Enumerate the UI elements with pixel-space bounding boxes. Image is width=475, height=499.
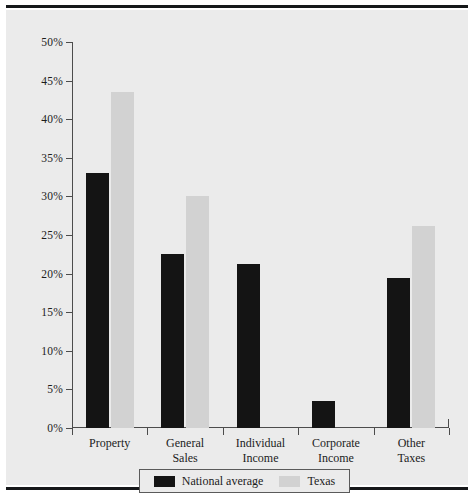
x-axis-tick	[223, 428, 224, 435]
y-axis-tick	[66, 351, 72, 352]
x-axis-category-label: IndividualIncome	[236, 436, 285, 466]
plot-area: 0%5%10%15%20%25%30%35%40%45%50% Property…	[72, 42, 449, 428]
y-axis-line	[72, 42, 73, 428]
x-axis-tick	[72, 428, 73, 435]
legend-entry: National average	[154, 474, 264, 489]
category-label-line: General	[166, 436, 204, 451]
bar-texas	[186, 196, 209, 428]
y-axis-tick-label: 5%	[47, 383, 63, 395]
category-label-line: Sales	[166, 451, 204, 466]
y-axis-tick-label: 25%	[41, 229, 63, 241]
y-axis-tick-label: 35%	[41, 152, 63, 164]
legend-swatch-nat	[154, 476, 175, 487]
y-axis-tick	[66, 42, 72, 43]
y-axis-tick-label: 0%	[47, 422, 63, 434]
x-axis-tick	[298, 428, 299, 435]
y-axis-tick	[66, 158, 72, 159]
bar-texas	[111, 92, 134, 428]
legend-label: Texas	[307, 474, 335, 489]
chart-panel: 0%5%10%15%20%25%30%35%40%45%50% Property…	[6, 10, 468, 485]
y-axis-tick-label: 30%	[41, 190, 63, 202]
x-axis-tick	[449, 428, 450, 435]
category-label-line: Corporate	[312, 436, 360, 451]
y-axis-tick	[66, 81, 72, 82]
category-label-line: Income	[312, 451, 360, 466]
category-label-line: Income	[236, 451, 285, 466]
y-axis-tick-label: 10%	[41, 345, 63, 357]
x-axis-category-label: OtherTaxes	[397, 436, 425, 466]
legend-swatch-tex	[279, 476, 300, 487]
category-label-line: Individual	[236, 436, 285, 451]
legend-entry: Texas	[279, 474, 335, 489]
y-axis-tick	[66, 119, 72, 120]
y-axis-tick-label: 20%	[41, 268, 63, 280]
y-axis-tick-label: 40%	[41, 113, 63, 125]
category-label-line: Other	[397, 436, 425, 451]
legend-label: National average	[182, 474, 264, 489]
chart-legend: National averageTexas	[139, 469, 350, 493]
y-axis-tick	[66, 274, 72, 275]
x-axis-category-label: CorporateIncome	[312, 436, 360, 466]
y-axis-tick-label: 45%	[41, 75, 63, 87]
y-axis-tick	[66, 235, 72, 236]
y-axis-tick	[66, 312, 72, 313]
y-axis-tick-label: 15%	[41, 306, 63, 318]
bar-texas	[412, 226, 435, 428]
bar-national-average	[161, 254, 184, 428]
top-rule	[6, 5, 468, 8]
bar-national-average	[237, 264, 260, 428]
x-axis-tick	[374, 428, 375, 435]
y-axis-tick	[66, 389, 72, 390]
x-axis-tick	[147, 428, 148, 435]
category-label-line: Property	[89, 436, 130, 451]
bar-chart-figure: 0%5%10%15%20%25%30%35%40%45%50% Property…	[0, 0, 475, 499]
bar-national-average	[312, 401, 335, 428]
y-axis-tick-label: 50%	[41, 36, 63, 48]
x-axis-category-label: Property	[89, 436, 130, 451]
bar-national-average	[86, 173, 109, 428]
y-axis-tick	[66, 196, 72, 197]
category-label-line: Taxes	[397, 451, 425, 466]
bar-national-average	[387, 278, 410, 428]
x-axis-right-cap	[448, 419, 449, 428]
x-axis-category-label: GeneralSales	[166, 436, 204, 466]
